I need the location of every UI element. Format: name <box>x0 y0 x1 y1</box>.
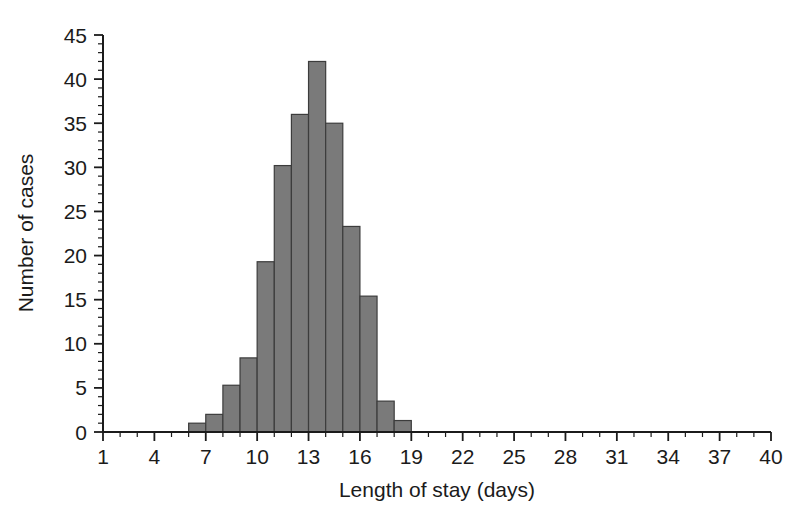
y-tick-label: 35 <box>64 112 87 135</box>
x-tick-label: 40 <box>759 445 782 468</box>
x-tick-label: 4 <box>149 445 161 468</box>
histogram-bar <box>257 262 274 432</box>
histogram-bar <box>309 61 326 432</box>
chart-background <box>0 0 807 522</box>
x-tick-label: 31 <box>605 445 628 468</box>
y-tick-label: 0 <box>75 421 87 444</box>
x-tick-label: 7 <box>200 445 212 468</box>
x-tick-label: 1 <box>97 445 109 468</box>
x-tick-label: 28 <box>554 445 577 468</box>
histogram-bar <box>394 421 411 432</box>
histogram-bar <box>223 385 240 432</box>
histogram-bar <box>189 423 206 432</box>
x-tick-label: 13 <box>297 445 320 468</box>
y-tick-label: 10 <box>64 332 87 355</box>
histogram-bar <box>326 123 343 432</box>
histogram-bar <box>206 414 223 432</box>
x-tick-label: 37 <box>708 445 731 468</box>
x-tick-label: 22 <box>451 445 474 468</box>
histogram-bar <box>343 226 360 432</box>
y-tick-label: 40 <box>64 68 87 91</box>
x-tick-label: 19 <box>400 445 423 468</box>
y-tick-label: 5 <box>75 376 87 399</box>
y-tick-label: 15 <box>64 288 87 311</box>
x-tick-label: 16 <box>348 445 371 468</box>
y-axis-title: Number of cases <box>14 154 37 313</box>
histogram-bar <box>240 358 257 432</box>
y-tick-label: 45 <box>64 24 87 47</box>
x-tick-label: 34 <box>657 445 681 468</box>
histogram-bar <box>360 296 377 432</box>
y-tick-label: 25 <box>64 200 87 223</box>
chart-canvas: 1471013161922252831343740 05101520253035… <box>0 0 807 522</box>
y-tick-label: 30 <box>64 156 87 179</box>
x-axis-title: Length of stay (days) <box>339 478 535 501</box>
x-tick-label: 25 <box>502 445 525 468</box>
histogram-bar <box>377 401 394 432</box>
histogram-bar <box>274 166 291 432</box>
histogram-bar <box>291 114 308 432</box>
x-tick-label: 10 <box>245 445 268 468</box>
histogram-figure: 1471013161922252831343740 05101520253035… <box>0 0 807 522</box>
y-tick-label: 20 <box>64 244 87 267</box>
